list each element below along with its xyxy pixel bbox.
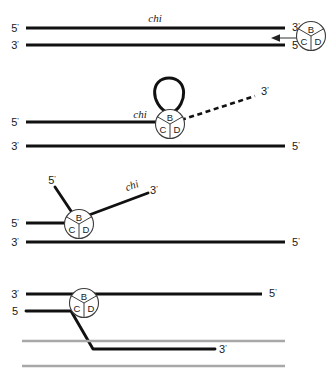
panel2-ssdna-loop: [155, 78, 184, 113]
panel3-subunit-d: D: [83, 224, 90, 235]
panel3-label-left: 5': [11, 217, 19, 229]
panel3-label-upper-branch: 5': [48, 174, 56, 186]
recbcd-recombination-figure: 5' 3' 3' 5' chi B C D: [0, 0, 332, 376]
panel3-subunit-b: B: [76, 212, 82, 223]
panel4-label-top-left: 3': [11, 288, 19, 300]
panel4-subunit-d: D: [88, 303, 95, 314]
panel3-label-bottom-right: 5': [292, 236, 300, 248]
panel3-recbcd-complex: B C D: [65, 210, 94, 239]
panel4-label-invading-end: 3': [219, 343, 227, 355]
panel1-subunit-b: B: [308, 24, 314, 35]
panel-4: 3' 5' 5 3' B C D: [11, 287, 285, 366]
panel3-label-bottom-left: 3': [11, 236, 19, 248]
panel-3: 5' 3' 5' 3' 5' chi B C D: [11, 174, 300, 248]
panel3-label-chi-branch: 3': [150, 184, 158, 196]
panel1-chi-label: chi: [148, 12, 161, 24]
panel2-subunit-b: B: [167, 112, 173, 123]
panel4-label-top-right: 5': [269, 287, 277, 299]
panel2-label-bottom-right: 5': [292, 140, 300, 152]
panel1-approach-arrow-head: [271, 34, 280, 42]
panel2-label-bottom-left: 3': [11, 140, 19, 152]
panel2-subunit-d: D: [174, 124, 181, 135]
panel4-subunit-b: B: [81, 291, 87, 302]
panel1-label-bottom-left: 3': [11, 39, 19, 51]
panel2-dashed-3prime-tail: [181, 96, 255, 120]
panel4-invading-strand: [26, 311, 215, 349]
panel-2: 5' 3' 5' 3' chi B C D: [11, 78, 300, 152]
panel2-chi-label: chi: [133, 108, 146, 120]
panel-1: 5' 3' 3' 5' chi B C D: [11, 12, 325, 51]
panel2-label-top-left: 5': [11, 116, 19, 128]
panel2-recbcd-complex: B C D: [156, 110, 185, 139]
panel2-label-dashed-end: 3': [261, 85, 269, 97]
panel4-label-second-left: 5: [12, 305, 18, 317]
panel1-label-top-left: 5': [11, 22, 19, 34]
panel4-recbcd-complex: B C D: [70, 289, 99, 318]
panel4-subunit-c: C: [74, 303, 81, 314]
panel1-recbcd-complex: B C D: [297, 22, 326, 51]
panel3-upper-left-branch: [55, 187, 71, 211]
panel2-subunit-c: C: [160, 124, 167, 135]
figure-canvas: 5' 3' 3' 5' chi B C D: [0, 0, 332, 376]
panel3-chi-label: chi: [123, 177, 140, 193]
panel1-subunit-c: C: [301, 36, 308, 47]
panel3-chi-branch: [89, 193, 148, 215]
panel3-subunit-c: C: [69, 224, 76, 235]
panel1-subunit-d: D: [315, 36, 322, 47]
